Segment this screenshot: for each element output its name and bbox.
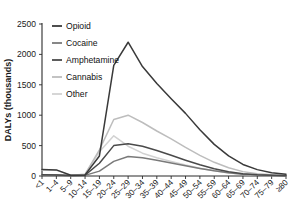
y-tick-label: 1000 [17, 110, 36, 120]
y-tick-label: 2000 [17, 49, 36, 59]
y-tick-label: 2500 [17, 19, 36, 29]
series-line-other [42, 136, 286, 176]
legend-label-cannabis: Cannabis [66, 72, 102, 82]
chart-legend: OpioidCocaineAmphetamineCannabisOther [52, 21, 119, 99]
y-tick-label: 500 [22, 141, 36, 151]
y-tick-label: 1500 [17, 80, 36, 90]
dalys-by-age-line-chart: DALYs (thousands) 05001000150020002500 <… [0, 0, 294, 210]
x-tick-label: ≥80 [274, 178, 290, 194]
y-axis-ticks: 05001000150020002500 [17, 19, 42, 181]
legend-label-other: Other [66, 89, 88, 99]
y-axis-title-text: DALYs (thousands) [3, 59, 13, 142]
legend-label-amphetamine: Amphetamine [66, 55, 119, 65]
legend-label-opioid: Opioid [66, 21, 91, 31]
x-axis-ticks: <11–45–910–1415–1920–2425–2930–3435–3940… [33, 176, 290, 201]
legend-label-cocaine: Cocaine [66, 38, 98, 48]
x-tick-label: 1–4 [44, 178, 60, 194]
y-tick-label: 0 [31, 171, 36, 181]
chart-container: DALYs (thousands) 05001000150020002500 <… [0, 0, 294, 210]
y-axis-title: DALYs (thousands) [3, 59, 13, 142]
